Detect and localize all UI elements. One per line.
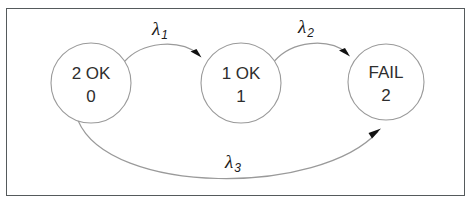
state-1ok-name: 1 OK: [222, 64, 261, 83]
state-1ok-index: 1: [236, 87, 245, 106]
transition-lambda-1[interactable]: λ1: [125, 18, 202, 62]
transition-lambda-3[interactable]: λ3: [78, 121, 381, 179]
state-node-fail[interactable]: FAIL 2: [348, 44, 424, 120]
transition-lambda-2-subscript: 2: [306, 26, 314, 40]
state-node-1ok[interactable]: 1 OK 1: [201, 43, 281, 123]
state-node-2ok[interactable]: 2 OK 0: [51, 43, 131, 123]
state-fail-index: 2: [381, 86, 390, 105]
state-2ok-name: 2 OK: [72, 64, 111, 83]
transition-lambda-3-label: λ3: [224, 151, 241, 175]
transition-lambda-2[interactable]: λ2: [275, 16, 351, 61]
transition-lambda-2-label: λ2: [297, 16, 314, 40]
transition-lambda-3-arrowhead: [369, 129, 382, 139]
transition-lambda-3-subscript: 3: [234, 161, 241, 175]
transition-lambda-1-path: [125, 44, 200, 61]
state-2ok-index: 0: [86, 87, 95, 106]
state-transition-diagram: λ1 λ2 λ3 2 OK 0 1 OK 1: [0, 0, 473, 206]
transition-lambda-1-subscript: 1: [161, 28, 168, 42]
transition-lambda-2-arrowhead: [339, 48, 350, 57]
state-fail-name: FAIL: [369, 63, 404, 82]
transition-lambda-1-label: λ1: [151, 18, 168, 42]
diagram-canvas: λ1 λ2 λ3 2 OK 0 1 OK 1: [0, 0, 473, 206]
transition-lambda-2-path: [275, 43, 349, 61]
